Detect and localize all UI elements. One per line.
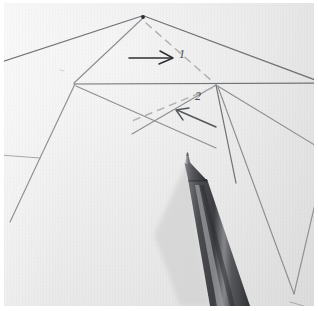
annotation-arrows — [4, 3, 314, 306]
photo-canvas: 1 2 — [0, 0, 318, 311]
arrow-2-group — [176, 108, 216, 127]
annotation-label-2: 2 — [195, 89, 201, 104]
arrow-2-shaft — [177, 110, 216, 127]
paper-sheet: 1 2 — [4, 3, 314, 306]
arrow-1-group — [129, 51, 173, 64]
annotation-label-1: 1 — [179, 47, 185, 62]
